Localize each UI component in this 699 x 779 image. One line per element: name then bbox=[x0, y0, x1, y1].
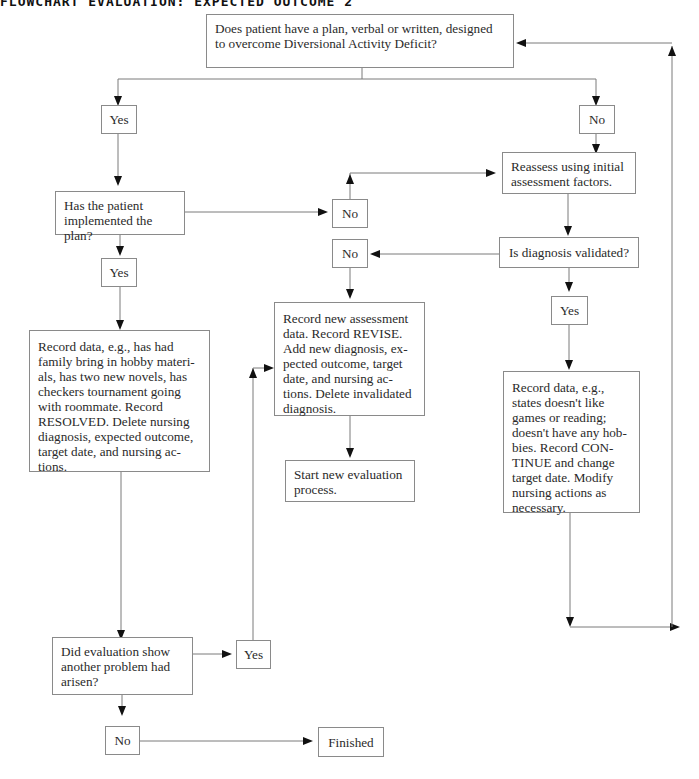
answer-yes-another: Yes bbox=[236, 640, 271, 669]
answer-yes-validated: Yes bbox=[551, 296, 588, 325]
answer-no-implemented: No bbox=[332, 199, 368, 228]
start-new-evaluation-step: Start new evaluation process. bbox=[285, 460, 415, 502]
answer-no-validated: No bbox=[332, 239, 368, 268]
question-implemented-plan: Has the patient implemented the plan? bbox=[55, 191, 185, 235]
answer-yes-implemented: Yes bbox=[101, 258, 137, 287]
question-diagnosis-validated: Is diagnosis validated? bbox=[499, 237, 639, 268]
question-another-problem: Did evaluation show another problem had … bbox=[52, 637, 193, 695]
page-title: FLOWCHART EVALUATION: EXPECTED OUTCOME 2 bbox=[0, 0, 353, 9]
answer-yes-plan: Yes bbox=[101, 105, 137, 134]
record-resolved-step: Record data, e.g., has had family bring … bbox=[29, 330, 210, 472]
answer-no-plan: No bbox=[579, 105, 615, 134]
record-continue-step: Record data, e.g., states doesn't like g… bbox=[503, 371, 640, 513]
question-has-plan: Does patient have a plan, verbal or writ… bbox=[206, 14, 514, 68]
record-revise-step: Record new assessment data. Record REVIS… bbox=[274, 302, 425, 416]
reassess-step: Reassess using initial assessment factor… bbox=[502, 152, 636, 194]
finished-terminal: Finished bbox=[318, 727, 384, 757]
answer-no-another: No bbox=[105, 726, 140, 755]
